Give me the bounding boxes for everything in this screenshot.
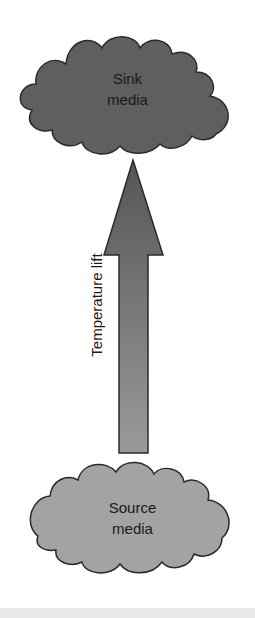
source-label-line2: media — [75, 518, 190, 539]
sink-media-label: Sink media — [70, 68, 185, 110]
sink-label-line1: Sink — [70, 68, 185, 89]
sink-label-line2: media — [70, 89, 185, 110]
temperature-lift-arrow — [104, 160, 163, 453]
source-media-label: Source media — [75, 497, 190, 539]
temperature-lift-text: Temperature lift — [88, 253, 105, 356]
bottom-divider — [0, 608, 255, 618]
source-label-line1: Source — [75, 497, 190, 518]
